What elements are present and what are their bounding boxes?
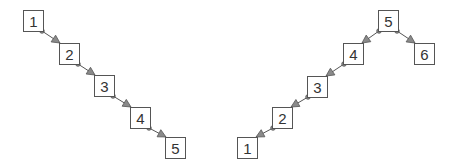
node-label: 3 [100,78,108,95]
node-R1: 1 [238,138,258,159]
nodes-layer: 12345546321 [24,11,435,159]
node-L1: 1 [24,11,44,32]
arrowhead-triangle-icon [362,35,371,43]
node-R4: 4 [344,44,364,65]
arrowhead-triangle-icon [291,100,300,108]
node-label: 4 [349,46,357,63]
node-R2: 2 [273,108,293,129]
node-label: 3 [313,79,321,96]
node-label: 2 [278,110,286,127]
arrowhead-triangle-icon [122,99,131,107]
node-label: 5 [171,140,179,157]
node-label: 5 [384,13,392,30]
arrowhead-triangle-icon [86,67,95,75]
node-L5: 5 [166,138,186,159]
node-label: 1 [243,140,251,157]
node-L2: 2 [60,44,80,65]
node-L3: 3 [95,76,115,97]
node-R5: 5 [379,11,399,32]
node-label: 2 [65,46,73,63]
tree-diagram: 12345546321 [0,0,454,167]
node-label: 1 [29,13,37,30]
arrowhead-triangle-icon [51,35,60,43]
node-R3: 3 [308,77,328,98]
arrowhead-triangle-icon [326,68,335,76]
node-label: 6 [420,46,428,63]
node-R6: 6 [415,44,435,65]
node-label: 4 [136,110,144,127]
arrowhead-triangle-icon [406,35,415,43]
node-L4: 4 [131,108,151,129]
